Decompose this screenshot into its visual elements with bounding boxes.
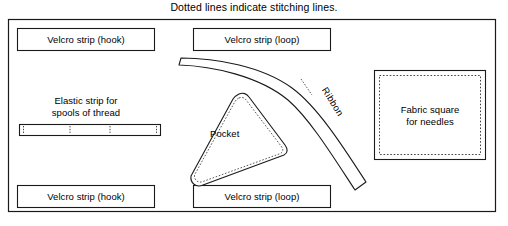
elastic-strip-rect bbox=[20, 125, 161, 136]
fabric-square-label: Fabric square for needles bbox=[375, 104, 485, 127]
velcro-strip-loop-bottom-label: Velcro strip (loop) bbox=[193, 191, 331, 203]
velcro-strip-loop-top-label: Velcro strip (loop) bbox=[193, 34, 331, 46]
velcro-strip-hook-top-label: Velcro strip (hook) bbox=[17, 34, 155, 46]
elastic-strip-label: Elastic strip for spools of thread bbox=[17, 95, 155, 118]
ribbon-stitch-mark bbox=[301, 79, 312, 95]
velcro-strip-hook-bottom-label: Velcro strip (hook) bbox=[17, 191, 155, 203]
pocket-outline bbox=[191, 93, 287, 186]
sewing-pattern-diagram: Dotted lines indicate stitching lines. bbox=[0, 0, 508, 226]
pocket-label: Pocket bbox=[210, 128, 270, 140]
